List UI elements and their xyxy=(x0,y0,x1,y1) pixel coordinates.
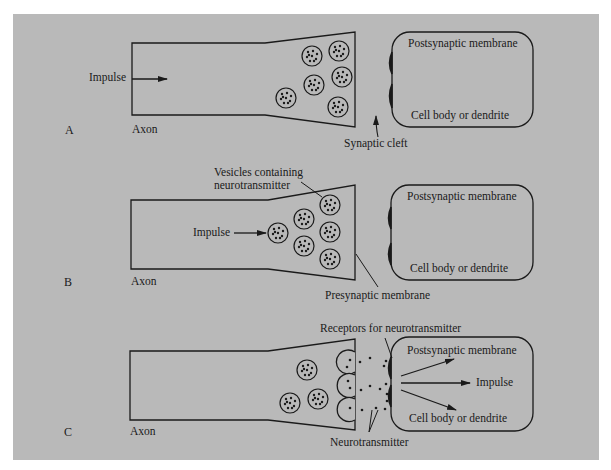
axon-terminal-outline xyxy=(130,339,355,430)
cell-body-label: Cell body or dendrite xyxy=(409,413,507,425)
vesicles-callout-label-2: neurotransmitter xyxy=(214,180,290,192)
fusing-vesicle xyxy=(337,398,355,422)
postsynaptic-membrane-label: Postsynaptic membrane xyxy=(407,345,517,357)
receptor-bump xyxy=(389,207,392,229)
postsynaptic-membrane-label: Postsynaptic membrane xyxy=(407,191,517,203)
receptor-bump xyxy=(389,357,392,379)
receptors-callout-label: Receptors for neurotransmitter xyxy=(320,323,461,335)
impulse-label: Impulse xyxy=(89,72,126,84)
panel-letter-a: A xyxy=(65,124,74,136)
vesicles-callout-line xyxy=(301,182,322,197)
fusing-vesicle xyxy=(336,350,355,374)
synaptic-cleft-pointer xyxy=(376,116,378,137)
axon-label: Axon xyxy=(131,276,157,288)
impulse-arrow xyxy=(401,390,456,410)
vesicles-callout-label: Vesicles containing xyxy=(214,167,303,179)
cell-body-label: Cell body or dendrite xyxy=(410,263,508,275)
impulse-arrow xyxy=(401,359,454,376)
presynaptic-membrane-label: Presynaptic membrane xyxy=(325,290,430,302)
axon-label: Axon xyxy=(130,426,156,438)
axon-label: Axon xyxy=(132,124,158,136)
receptor-bump xyxy=(389,243,392,265)
postsynaptic-membrane-label: Postsynaptic membrane xyxy=(408,38,518,50)
receptor-bump xyxy=(389,385,392,407)
impulse-label: Impulse xyxy=(476,377,513,389)
presynaptic-callout-line xyxy=(356,254,378,287)
receptor-bump xyxy=(390,84,393,108)
fusing-vesicle xyxy=(337,374,355,398)
synaptic-cleft-label: Synaptic cleft xyxy=(344,138,408,150)
neurotransmitter-label: Neurotransmitter xyxy=(330,437,409,449)
panel-letter-c: C xyxy=(64,426,72,438)
neurotransmitter-callout-lines xyxy=(369,410,378,432)
cell-body-label: Cell body or dendrite xyxy=(411,110,509,122)
impulse-label: Impulse xyxy=(193,227,230,239)
receptor-bump xyxy=(390,52,393,74)
panel-letter-b: B xyxy=(64,276,72,288)
